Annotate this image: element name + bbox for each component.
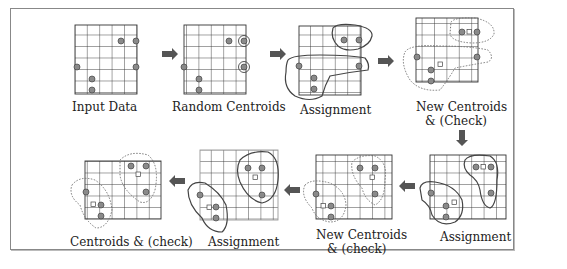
- panel-assignment-3: [188, 150, 278, 232]
- label-new-centroids-1-line1: New Centroids: [416, 100, 507, 114]
- label-centroids-check: Centroids & (check): [70, 235, 193, 249]
- arrow-right-icon: [270, 48, 286, 60]
- arrow-right-icon: [162, 48, 178, 60]
- arrow-left-icon: [399, 180, 415, 192]
- label-assignment-3: Assignment: [208, 235, 279, 249]
- panel-input-data: [74, 25, 139, 94]
- label-new-centroids-2-line1: New Centroids: [316, 228, 407, 242]
- panel-assignment-1: [285, 24, 372, 99]
- panel-random-centroids: [181, 25, 250, 94]
- panel-new-centroids-2: [304, 155, 392, 222]
- label-random-centroids: Random Centroids: [172, 100, 286, 114]
- label-assignment-2: Assignment: [440, 230, 511, 244]
- panel-assignment-2: [420, 155, 506, 224]
- arrow-left-icon: [169, 175, 185, 187]
- arrow-right-icon: [378, 55, 394, 67]
- label-new-centroids-2-line2: & (check): [327, 242, 386, 256]
- label-input-data: Input Data: [72, 100, 137, 114]
- panel-new-centroids-1: [403, 18, 494, 90]
- arrow-down-icon: [456, 130, 468, 146]
- kmeans-diagram: [0, 0, 567, 269]
- label-new-centroids-1-line2: & (Check): [425, 114, 487, 128]
- panel-centroids-check: [71, 153, 161, 228]
- arrow-left-icon: [284, 184, 300, 196]
- label-assignment-1: Assignment: [300, 103, 371, 117]
